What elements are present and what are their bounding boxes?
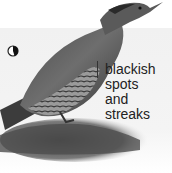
annotation-line-4: streaks	[105, 107, 156, 122]
annotation-line-1: blackish	[105, 62, 156, 77]
bird-illustration: blackish spots and streaks	[0, 0, 172, 173]
annotation-label: blackish spots and streaks	[105, 62, 156, 122]
moon-phase-icon	[7, 45, 19, 57]
annotation-line-3: and	[105, 92, 156, 107]
annotation-line-2: spots	[105, 77, 156, 92]
annotation-line	[97, 61, 98, 78]
